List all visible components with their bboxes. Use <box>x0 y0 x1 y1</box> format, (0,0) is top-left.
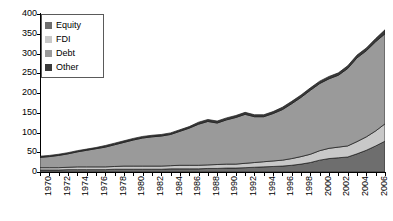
legend-item-label: Debt <box>56 49 75 58</box>
x-axis-tick-label: 1980 <box>137 176 146 196</box>
x-axis-tick-label: 1974 <box>81 176 90 196</box>
x-axis-tick-label: 1996 <box>286 176 295 196</box>
x-axis-tick-label: 1994 <box>268 176 277 196</box>
chart-legend: EquityFDIDebtOther <box>41 14 104 78</box>
y-axis-tick-label: 350 <box>3 29 37 38</box>
x-axis-tick-label: 1988 <box>212 176 221 196</box>
legend-swatch-icon <box>45 22 52 29</box>
legend-swatch-icon <box>45 36 52 43</box>
y-axis-tick-label: 0 <box>3 167 37 176</box>
legend-item-equity: Equity <box>45 18 99 32</box>
legend-item-debt: Debt <box>45 46 99 60</box>
x-axis-tick-label: 2002 <box>342 176 351 196</box>
y-axis-tick-label: 300 <box>3 49 37 58</box>
x-axis-tick-label: 1972 <box>63 176 72 196</box>
y-axis-tick-label: 200 <box>3 88 37 97</box>
y-axis-labels: 050100150200250300350400 <box>0 0 37 221</box>
legend-item-other: Other <box>45 60 99 74</box>
x-axis-tick-label: 1990 <box>230 176 239 196</box>
x-axis-tick-label: 1978 <box>119 176 128 196</box>
legend-item-fdi: FDI <box>45 32 99 46</box>
x-axis-tick-label: 1976 <box>100 176 109 196</box>
x-axis-tick-label: 1982 <box>156 176 165 196</box>
x-axis-line <box>40 172 386 173</box>
y-axis-tick-label: 50 <box>3 147 37 156</box>
y-axis-tick-label: 400 <box>3 9 37 18</box>
x-axis-labels: 1970197219741976197819801982198419861988… <box>40 176 386 221</box>
x-axis-tick-label: 1986 <box>193 176 202 196</box>
legend-item-label: Other <box>56 63 79 72</box>
legend-item-label: Equity <box>56 21 81 30</box>
x-axis-tick-label: 1992 <box>249 176 258 196</box>
y-axis-tick-label: 150 <box>3 108 37 117</box>
x-axis-tick-label: 1984 <box>175 176 184 196</box>
y-axis-tick-label: 100 <box>3 128 37 137</box>
x-axis-tick-label: 2006 <box>380 176 389 196</box>
stacked-area-chart: 050100150200250300350400 197019721974197… <box>0 0 393 221</box>
x-axis-tick-label: 2000 <box>324 176 333 196</box>
x-axis-tick-label: 2004 <box>361 176 370 196</box>
x-axis-tick-label: 1970 <box>44 176 53 196</box>
x-axis-tick-label: 1998 <box>305 176 314 196</box>
legend-item-label: FDI <box>56 35 71 44</box>
y-axis-tick-label: 250 <box>3 68 37 77</box>
legend-swatch-icon <box>45 50 52 57</box>
legend-swatch-icon <box>45 64 52 71</box>
